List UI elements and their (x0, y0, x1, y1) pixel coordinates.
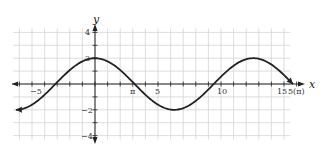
x-tick-label-neg5: −5 (30, 88, 42, 96)
x-tick-label-15: 15 (277, 88, 287, 96)
y-tick-label-neg4: −4 (81, 133, 93, 141)
x-tick-label-5: 5 (155, 88, 160, 96)
y-tick-label-neg2: −2 (81, 107, 93, 115)
y-tick-label-2: 2 (85, 55, 90, 63)
x-tick-label-pi: π (130, 88, 135, 96)
y-axis-label: y (93, 14, 99, 25)
y-tick-label-4: 4 (85, 29, 90, 37)
x-axis-label: x (309, 79, 315, 90)
x-tick-label-5pi: 5(π) (288, 88, 305, 96)
x-tick-label-10: 10 (217, 88, 227, 96)
cosine-graph (0, 0, 330, 152)
